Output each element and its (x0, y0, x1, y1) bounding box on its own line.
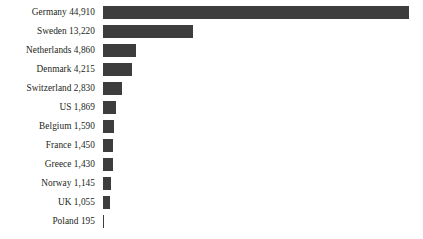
bar-track-norway (103, 177, 423, 190)
bar-row-greece: Greece 1,430 (0, 158, 423, 171)
bar-track-germany (103, 6, 423, 19)
bar-fill-poland (103, 215, 104, 228)
bar-row-belgium: Belgium 1,590 (0, 120, 423, 133)
bar-row-norway: Norway 1,145 (0, 177, 423, 190)
bar-label-france: France 1,450 (0, 139, 95, 152)
bar-label-greece: Greece 1,430 (0, 158, 95, 171)
bar-track-poland (103, 215, 423, 228)
bar-rows-container: Germany 44,910Sweden 13,220Netherlands 4… (0, 6, 423, 234)
bar-row-uk: UK 1,055 (0, 196, 423, 209)
bar-label-norway: Norway 1,145 (0, 177, 95, 190)
bar-fill-switzerland (103, 82, 122, 95)
bar-track-france (103, 139, 423, 152)
bar-label-sweden: Sweden 13,220 (0, 25, 95, 38)
bar-fill-norway (103, 177, 111, 190)
bar-label-denmark: Denmark 4,215 (0, 63, 95, 76)
bar-fill-denmark (103, 63, 132, 76)
bar-fill-belgium (103, 120, 114, 133)
bar-chart: Germany 44,910Sweden 13,220Netherlands 4… (0, 0, 423, 239)
bar-fill-sweden (103, 25, 193, 38)
bar-fill-us (103, 101, 116, 114)
bar-fill-uk (103, 196, 110, 209)
bar-row-netherlands: Netherlands 4,860 (0, 44, 423, 57)
bar-fill-netherlands (103, 44, 136, 57)
bar-row-us: US 1,869 (0, 101, 423, 114)
bar-fill-france (103, 139, 113, 152)
bar-track-denmark (103, 63, 423, 76)
bar-fill-greece (103, 158, 113, 171)
bar-row-sweden: Sweden 13,220 (0, 25, 423, 38)
bar-label-belgium: Belgium 1,590 (0, 120, 95, 133)
bar-row-france: France 1,450 (0, 139, 423, 152)
bar-row-denmark: Denmark 4,215 (0, 63, 423, 76)
bar-label-us: US 1,869 (0, 101, 95, 114)
bar-fill-germany (103, 6, 409, 19)
bar-track-uk (103, 196, 423, 209)
bar-track-us (103, 101, 423, 114)
bar-label-poland: Poland 195 (0, 215, 95, 228)
bar-label-germany: Germany 44,910 (0, 6, 95, 19)
bar-row-germany: Germany 44,910 (0, 6, 423, 19)
bar-label-netherlands: Netherlands 4,860 (0, 44, 95, 57)
bar-track-belgium (103, 120, 423, 133)
bar-row-poland: Poland 195 (0, 215, 423, 228)
bar-row-switzerland: Switzerland 2,830 (0, 82, 423, 95)
bar-track-sweden (103, 25, 423, 38)
bar-track-netherlands (103, 44, 423, 57)
bar-label-switzerland: Switzerland 2,830 (0, 82, 95, 95)
bar-track-switzerland (103, 82, 423, 95)
bar-track-greece (103, 158, 423, 171)
bar-label-uk: UK 1,055 (0, 196, 95, 209)
